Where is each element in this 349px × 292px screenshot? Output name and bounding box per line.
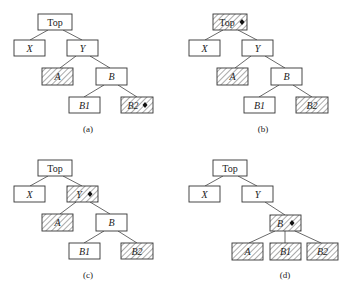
edge-b-b2 <box>118 231 137 243</box>
node-label: B <box>108 217 114 228</box>
node-label: Top <box>47 17 62 28</box>
node-a: A <box>217 68 248 85</box>
tree-diagram-figure: Top X Y A B B1 B2 (a) Top X Y A B B1 B2 … <box>0 0 349 292</box>
node-label: X <box>200 43 208 54</box>
node-label: B <box>108 71 114 82</box>
node-label: A <box>228 71 236 82</box>
node-top: Top <box>38 160 72 176</box>
edge-b-a <box>249 231 275 243</box>
node-label: X <box>25 189 33 200</box>
panel-a: Top X Y A B B1 B2 (a) <box>14 14 153 134</box>
edge-b-b1 <box>259 85 279 97</box>
edge-top-x <box>30 30 48 40</box>
node-label: A <box>53 217 61 228</box>
edge-b-b2 <box>118 85 137 97</box>
node-top: Top <box>38 14 72 30</box>
node-b2: B2 <box>307 243 338 260</box>
edge-b-b1 <box>84 231 104 243</box>
node-y: Y <box>242 40 273 56</box>
node-x: X <box>189 186 220 202</box>
node-b2: B2 <box>121 243 153 259</box>
edge-top-x <box>30 176 48 186</box>
panel-caption: (a) <box>83 124 93 134</box>
panel-c: Top X Y A B B1 B2 (c) <box>14 160 153 280</box>
edge-b-b2 <box>295 231 321 243</box>
node-label: B <box>277 218 283 229</box>
edge-y-b <box>90 202 110 214</box>
node-a: A <box>42 68 73 85</box>
node-label: A <box>243 246 251 257</box>
node-a: A <box>232 243 263 260</box>
edge-top-y <box>63 176 82 186</box>
panel-d: Top X Y B A B1 B2 (d) <box>189 160 338 280</box>
node-b: B <box>271 68 302 85</box>
node-x: X <box>14 40 45 56</box>
node-y: Y <box>67 40 98 56</box>
panel-caption: (b) <box>258 124 269 134</box>
node-b1: B1 <box>69 97 100 113</box>
node-b2: B2 <box>121 97 153 113</box>
node-label: X <box>25 43 33 54</box>
node-top: Top <box>213 160 247 176</box>
node-x: X <box>189 40 220 56</box>
node-b2: B2 <box>296 97 328 113</box>
edge-y-b <box>265 202 285 215</box>
node-label: A <box>53 71 61 82</box>
node-label: B2 <box>127 100 138 111</box>
edge-top-x <box>205 176 223 186</box>
node-label: Top <box>222 163 237 174</box>
node-label: B1 <box>254 100 265 111</box>
node-label: Top <box>219 17 234 28</box>
node-label: Top <box>47 163 62 174</box>
node-x: X <box>14 186 45 202</box>
node-label: B <box>283 71 289 82</box>
panel-caption: (c) <box>83 270 93 280</box>
panel-b: Top X Y A B B1 B2 (b) <box>189 14 328 134</box>
node-label: B2 <box>306 100 317 111</box>
node-b1: B1 <box>69 243 100 259</box>
edge-b-b2 <box>293 85 312 97</box>
node-top: Top <box>213 14 247 30</box>
node-b: B <box>96 68 127 85</box>
edge-top-y <box>238 176 257 186</box>
edge-y-a <box>235 56 251 68</box>
node-label: B1 <box>79 100 90 111</box>
node-label: X <box>200 189 208 200</box>
edge-b-b1 <box>84 85 104 97</box>
edge-y-b <box>265 56 285 68</box>
node-b1: B1 <box>270 243 301 260</box>
node-label: B2 <box>317 246 328 257</box>
node-label: B2 <box>131 246 142 257</box>
edge-top-x <box>205 30 223 40</box>
edge-top-y <box>238 30 257 40</box>
edge-y-a <box>60 56 76 68</box>
node-label: B1 <box>79 246 90 257</box>
node-y: Y <box>67 186 98 202</box>
node-b: B <box>270 215 301 231</box>
node-b: B <box>96 214 127 231</box>
edge-y-b <box>90 56 110 68</box>
node-y: Y <box>242 186 273 202</box>
edge-top-y <box>63 30 82 40</box>
node-label: B1 <box>280 246 291 257</box>
node-b1: B1 <box>244 97 275 113</box>
panel-caption: (d) <box>280 270 291 280</box>
edge-y-a <box>60 202 76 214</box>
node-a: A <box>42 214 73 231</box>
